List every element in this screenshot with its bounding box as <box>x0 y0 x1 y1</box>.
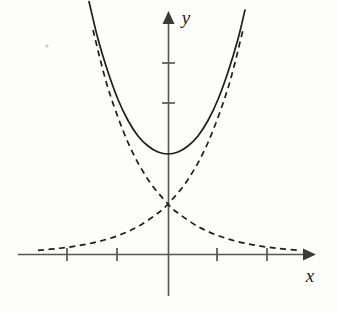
x-axis-label: x <box>305 265 315 286</box>
math-figure: y x <box>0 0 337 312</box>
scan-speck <box>45 44 48 47</box>
y-axis-label: y <box>180 7 191 28</box>
graph-canvas: y x <box>0 0 337 312</box>
